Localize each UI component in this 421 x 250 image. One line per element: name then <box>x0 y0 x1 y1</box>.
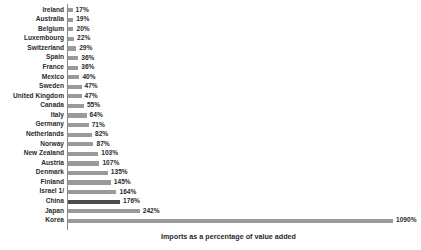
category-label: New Zealand <box>0 149 64 158</box>
category-label: Netherlands <box>0 130 64 139</box>
category-label: United Kingdom <box>0 92 64 101</box>
bar <box>68 190 117 194</box>
category-label: Korea <box>0 216 64 225</box>
category-label: China <box>0 197 64 206</box>
bar-row: Sweden47% <box>0 83 421 92</box>
bar-track: 17% <box>68 6 421 15</box>
bar-track: 135% <box>68 169 421 178</box>
bar-row: Netherlands82% <box>0 130 421 139</box>
bar-value-label: 22% <box>74 34 90 43</box>
bar-row: United Kingdom47% <box>0 92 421 101</box>
bar-value-label: 47% <box>82 82 98 91</box>
category-label: Switzerland <box>0 44 64 53</box>
bar-chart: Ireland17%Australia19%Belgium20%Luxembou… <box>0 0 421 250</box>
bar-row: Austria107% <box>0 159 421 168</box>
bar-row: Korea1090% <box>0 217 421 226</box>
bar-track: 176% <box>68 198 421 207</box>
category-label: Canada <box>0 101 64 110</box>
category-label: Mexico <box>0 73 64 82</box>
bar-track: 36% <box>68 63 421 72</box>
bar-value-label: 36% <box>78 54 94 63</box>
category-label: Luxembourg <box>0 34 64 43</box>
bar-track: 19% <box>68 16 421 25</box>
bar-track: 64% <box>68 111 421 120</box>
bar-value-label: 19% <box>73 15 89 24</box>
bar-value-label: 87% <box>93 140 109 149</box>
bar-value-label: 176% <box>120 197 140 206</box>
bar-value-label: 145% <box>111 178 131 187</box>
bar-value-label: 29% <box>76 44 92 53</box>
category-label: Japan <box>0 207 64 216</box>
bar-row: Ireland17% <box>0 6 421 15</box>
bar-value-label: 71% <box>89 121 105 130</box>
bar-track: 145% <box>68 178 421 187</box>
bar-row: New Zealand103% <box>0 150 421 159</box>
bar <box>68 75 80 79</box>
bar-row: Switzerland29% <box>0 44 421 53</box>
bar-value-label: 40% <box>79 73 95 82</box>
bar-value-label: 164% <box>116 188 136 197</box>
bar-track: 1090% <box>68 217 421 226</box>
bar-row: Mexico40% <box>0 73 421 82</box>
bar-row: Belgium20% <box>0 25 421 34</box>
bar-track: 47% <box>68 83 421 92</box>
bar <box>68 66 79 70</box>
bar <box>68 133 92 137</box>
category-label: Australia <box>0 15 64 24</box>
bar-value-label: 82% <box>92 130 108 139</box>
bar <box>68 161 100 165</box>
bar <box>68 142 94 146</box>
bar-track: 40% <box>68 73 421 82</box>
bar <box>68 94 82 98</box>
bar-row: Japan242% <box>0 207 421 216</box>
bar-row: Germany71% <box>0 121 421 130</box>
bar-row: Canada55% <box>0 102 421 111</box>
bar-row: Israel 1/164% <box>0 188 421 197</box>
bar-row: Spain36% <box>0 54 421 63</box>
bar-row: Australia19% <box>0 16 421 25</box>
bar-value-label: 64% <box>87 111 103 120</box>
category-label: Austria <box>0 159 64 168</box>
bar <box>68 209 140 213</box>
category-label: Ireland <box>0 6 64 15</box>
bar-track: 55% <box>68 102 421 111</box>
bar <box>68 85 82 89</box>
bar-value-label: 107% <box>99 159 119 168</box>
bar-value-label: 55% <box>84 101 100 110</box>
bar <box>68 46 77 50</box>
x-axis-title: Imports as a percentage of value added <box>0 232 421 241</box>
bar-track: 242% <box>68 207 421 216</box>
bar-track: 107% <box>68 159 421 168</box>
bar-track: 36% <box>68 54 421 63</box>
bar-track: 22% <box>68 35 421 44</box>
plot-area: Ireland17%Australia19%Belgium20%Luxembou… <box>0 4 421 230</box>
category-label: Israel 1/ <box>0 187 64 196</box>
bar-value-label: 36% <box>78 63 94 72</box>
bar <box>68 180 111 184</box>
x-axis-title-text: Imports as a percentage of value added <box>161 232 296 241</box>
bar <box>68 219 394 223</box>
bar-row: China176% <box>0 198 421 207</box>
bar-track: 47% <box>68 92 421 101</box>
category-label: Denmark <box>0 168 64 177</box>
bar-value-label: 103% <box>98 149 118 158</box>
bar-value-label: 135% <box>108 168 128 177</box>
bar-value-label: 17% <box>73 6 89 15</box>
bar-track: 103% <box>68 150 421 159</box>
bar <box>68 113 87 117</box>
bar-value-label: 1090% <box>393 216 417 225</box>
bar <box>68 171 108 175</box>
category-label: Finland <box>0 178 64 187</box>
bar-row: Luxembourg22% <box>0 35 421 44</box>
bar-track: 164% <box>68 188 421 197</box>
category-label: France <box>0 63 64 72</box>
bar-value-label: 47% <box>82 92 98 101</box>
bar-track: 87% <box>68 140 421 149</box>
category-label: Spain <box>0 53 64 62</box>
bar <box>68 56 79 60</box>
bar-row: Denmark135% <box>0 169 421 178</box>
bar-track: 20% <box>68 25 421 34</box>
bar <box>68 200 121 204</box>
bar-value-label: 242% <box>140 207 160 216</box>
bar-value-label: 20% <box>73 25 89 34</box>
